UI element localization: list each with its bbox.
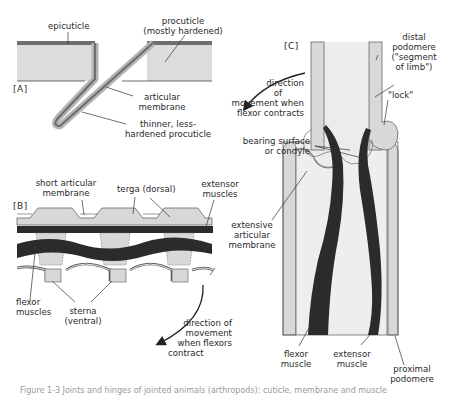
panel-a-tag: [A] <box>13 84 28 94</box>
panel-c-tag: [C] <box>284 41 299 51</box>
label-extensor-c-line2: muscle <box>326 359 378 369</box>
label-articular-line1: articular <box>132 92 192 102</box>
label-dir-c-line2: of <box>226 88 304 98</box>
label-dir-c-line1: direction <box>226 78 304 88</box>
label-procuticle-line2: (mostly hardened) <box>135 26 231 36</box>
label-flexor-c-line1: flexor <box>273 349 319 359</box>
label-short-line1: short articular <box>26 178 106 188</box>
label-extensor-line2: muscles <box>196 189 244 199</box>
label-thinner-procuticle: thinner, less- hardened procuticle <box>108 119 228 139</box>
label-distal-podomere: distal podomere ("segment of limb") <box>384 32 444 72</box>
label-thinner-line1: thinner, less- <box>108 119 228 129</box>
label-flexor-c-line2: muscle <box>273 359 319 369</box>
label-direction-flexors: direction of movement when flexors contr… <box>160 318 232 358</box>
label-articular-membrane: articular membrane <box>132 92 192 112</box>
label-extensive-articular-membrane: extensive articular membrane <box>226 220 278 250</box>
label-dir-b-line3: when flexors <box>160 338 232 348</box>
label-bearing-surface: bearing surface or condyle <box>226 136 310 156</box>
label-lock: "lock" <box>388 90 413 100</box>
label-extensive-line2: articular <box>226 230 278 240</box>
label-flexor-muscles: flexor muscles <box>16 297 51 317</box>
label-bearing-line1: bearing surface <box>226 136 310 146</box>
label-flexor-muscle: flexor muscle <box>273 349 319 369</box>
label-proximal-line2: podomere <box>384 374 440 384</box>
label-epicuticle: epicuticle <box>48 21 89 31</box>
label-short-line2: membrane <box>26 188 106 198</box>
label-extensor-muscles: extensor muscles <box>196 179 244 199</box>
label-distal-line2: podomere <box>384 42 444 52</box>
label-proximal-line1: proximal <box>384 364 440 374</box>
label-articular-line2: membrane <box>132 102 192 112</box>
label-procuticle-line1: procuticle <box>135 16 231 26</box>
label-extensor-line1: extensor <box>196 179 244 189</box>
label-procuticle: procuticle (mostly hardened) <box>135 16 231 36</box>
label-extensor-muscle: extensor muscle <box>326 349 378 369</box>
label-direction-flexor: direction of movement when flexor contra… <box>226 78 304 118</box>
label-distal-line1: distal <box>384 32 444 42</box>
label-sterna-line1: sterna <box>58 306 108 316</box>
label-flexor-line2: muscles <box>16 307 51 317</box>
label-terga: terga (dorsal) <box>117 184 176 194</box>
label-extensor-c-line1: extensor <box>326 349 378 359</box>
label-distal-line4: of limb") <box>384 62 444 72</box>
label-flexor-line1: flexor <box>16 297 51 307</box>
label-dir-b-line4: contract <box>160 348 232 358</box>
label-sterna-line2: (ventral) <box>58 316 108 326</box>
panel-b-tag: [B] <box>13 201 28 211</box>
label-dir-b-line1: direction of <box>160 318 232 328</box>
label-proximal-podomere: proximal podomere <box>384 364 440 384</box>
label-bearing-line2: or condyle <box>226 146 310 156</box>
label-dir-c-line3: movement when <box>226 98 304 108</box>
label-distal-line3: ("segment <box>384 52 444 62</box>
label-sterna: sterna (ventral) <box>58 306 108 326</box>
label-dir-c-line4: flexor contracts <box>226 108 304 118</box>
label-thinner-line2: hardened procuticle <box>108 129 228 139</box>
label-short-articular-membrane: short articular membrane <box>26 178 106 198</box>
label-extensive-line3: membrane <box>226 240 278 250</box>
label-extensive-line1: extensive <box>226 220 278 230</box>
label-dir-b-line2: movement <box>160 328 232 338</box>
figure-caption: Figure 1-3 Joints and hinges of jointed … <box>20 386 440 397</box>
